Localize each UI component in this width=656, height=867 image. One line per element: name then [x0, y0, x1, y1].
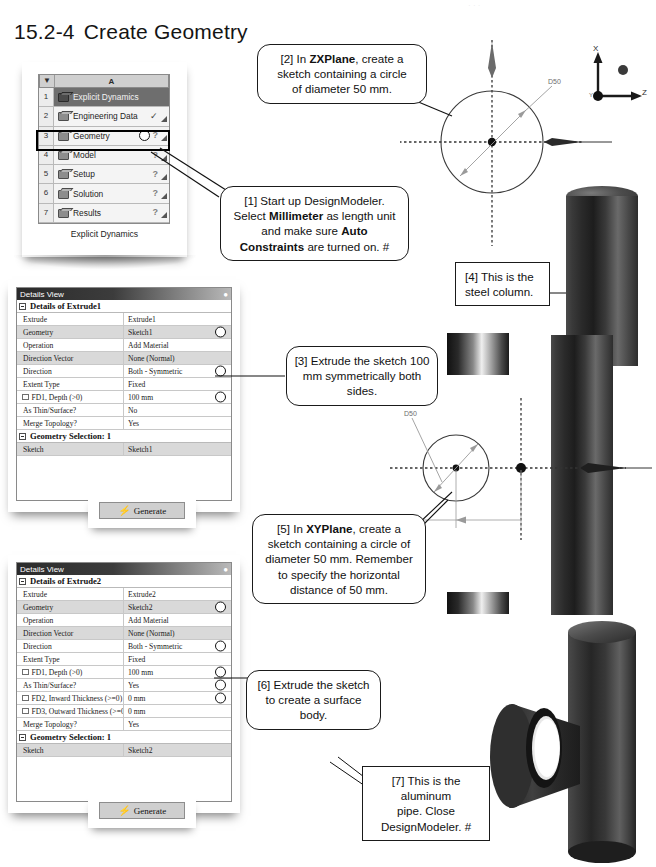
details-view-1-section-header[interactable]: Details of Extrude1	[17, 300, 231, 313]
parameter-checkbox[interactable]	[22, 669, 29, 676]
details-row-value[interactable]: None (Normal)	[124, 352, 231, 364]
cell-corner-icon[interactable]	[161, 174, 167, 180]
cell-body[interactable]: Setup?	[54, 165, 169, 183]
callout-marker-icon	[215, 693, 226, 704]
cell-body[interactable]: Results?	[54, 204, 169, 222]
details-row-value[interactable]: Yes	[124, 718, 231, 730]
details-row[interactable]: ExtrudeExtrude1	[17, 313, 231, 326]
schematic-header-row: ▼ A	[39, 74, 169, 88]
details-row[interactable]: OperationAdd Material	[17, 339, 231, 352]
details-row-value[interactable]: Fixed	[124, 378, 231, 390]
callout-2: [2] In ZXPlane, create asketch containin…	[257, 44, 427, 104]
pin-icon[interactable]: ●	[223, 565, 228, 574]
cell-corner-icon[interactable]	[161, 155, 167, 161]
details-key-label: Direction Vector	[23, 629, 73, 638]
details-row[interactable]: Extent TypeFixed	[17, 653, 231, 666]
collapse-icon[interactable]	[19, 578, 26, 585]
details-row-value[interactable]: 0 mm	[124, 705, 231, 717]
generate-button-bottom[interactable]: ⚡ Generate	[99, 802, 185, 819]
details-row[interactable]: As Thin/Surface?No	[17, 404, 231, 417]
details-value-label: Sketch2	[128, 603, 152, 612]
details-row-value[interactable]: 100 mm	[124, 391, 231, 403]
details-view-1-section2-header[interactable]: Geometry Selection: 1	[17, 430, 231, 443]
details-key-label: FD1, Depth (>0)	[32, 668, 83, 677]
details-row-value[interactable]: None (Normal)	[124, 627, 231, 639]
parameter-checkbox[interactable]	[22, 394, 29, 401]
cell-label: Setup	[73, 169, 95, 179]
details-row-value[interactable]: Yes	[124, 417, 231, 429]
details-row[interactable]: DirectionBoth - Symmetric	[17, 365, 231, 378]
details-row-value[interactable]: Fixed	[124, 653, 231, 665]
details-row[interactable]: OperationAdd Material	[17, 614, 231, 627]
details-row-key: As Thin/Surface?	[17, 404, 124, 416]
axis-label-x: X	[593, 44, 598, 53]
details-row[interactable]: As Thin/Surface?Yes	[17, 679, 231, 692]
details-row-value[interactable]: Sketch1	[124, 326, 231, 338]
sketch2-axis-arrow	[580, 463, 626, 473]
project-schematic-panel: ▼ A 1Explicit Dynamics2Engineering Data✓…	[22, 62, 187, 257]
details-row[interactable]: SketchSketch1	[17, 443, 231, 456]
schematic-row-explicit-dynamics[interactable]: 1Explicit Dynamics	[39, 88, 169, 107]
details-row-value[interactable]: Sketch1	[124, 443, 231, 455]
details-row-value[interactable]: 0 mm	[124, 692, 231, 704]
details-row-key: Merge Topology?	[17, 718, 124, 730]
details-row-value[interactable]: Extrude2	[124, 588, 231, 600]
callout-6-text: [6] Extrude the sketchto create a surfac…	[257, 678, 369, 721]
details-row-value[interactable]: Both - Symmetric	[124, 365, 231, 377]
caret-down-icon[interactable]: ▼	[40, 75, 55, 87]
details-row-value[interactable]: Add Material	[124, 339, 231, 351]
collapse-icon[interactable]	[19, 734, 26, 741]
generate-button-top[interactable]: ⚡ Generate	[99, 502, 185, 519]
details-row[interactable]: GeometrySketch1	[17, 326, 231, 339]
details-row[interactable]: Extent TypeFixed	[17, 378, 231, 391]
details-row[interactable]: SketchSketch2	[17, 744, 231, 757]
page-root: · · · 15.2-4Create Geometry ▼ A 1Explici…	[0, 0, 656, 867]
details-row[interactable]: Direction VectorNone (Normal)	[17, 352, 231, 365]
analysis-system-icon	[58, 92, 69, 102]
details-row-value[interactable]: Yes	[124, 679, 231, 691]
parameter-checkbox[interactable]	[22, 708, 29, 715]
collapse-icon[interactable]	[19, 433, 26, 440]
cell-body[interactable]: Explicit Dynamics	[54, 88, 169, 106]
details-row-value[interactable]: Sketch2	[124, 601, 231, 613]
details-row[interactable]: Merge Topology?Yes	[17, 718, 231, 731]
details-row[interactable]: FD1, Depth (>0)100 mm	[17, 666, 231, 679]
details-row[interactable]: FD1, Depth (>0)100 mm	[17, 391, 231, 404]
details-row-value[interactable]: Extrude1	[124, 313, 231, 325]
schematic-row-solution[interactable]: 6Solution?	[39, 184, 169, 203]
schematic-row-engineering-data[interactable]: 2Engineering Data✓	[39, 107, 169, 126]
cell-body[interactable]: Engineering Data✓	[54, 107, 169, 125]
details-key-label: Operation	[23, 341, 53, 350]
schematic-rows: 1Explicit Dynamics2Engineering Data✓3Geo…	[39, 88, 169, 223]
details-row-value[interactable]: 100 mm	[124, 666, 231, 678]
pin-icon[interactable]: ●	[223, 290, 228, 299]
section-title: Create Geometry	[84, 20, 248, 43]
cell-body[interactable]: Solution?	[54, 184, 169, 202]
details-row[interactable]: Merge Topology?Yes	[17, 417, 231, 430]
details-row[interactable]: Direction VectorNone (Normal)	[17, 627, 231, 640]
row-index: 2	[39, 107, 54, 125]
details-row[interactable]: GeometrySketch2	[17, 601, 231, 614]
callout-3: [3] Extrude the sketch 100mm symmetrical…	[286, 346, 438, 406]
schematic-row-setup[interactable]: 5Setup?	[39, 165, 169, 184]
collapse-icon[interactable]	[19, 303, 26, 310]
cell-corner-icon[interactable]	[161, 116, 167, 122]
details-value-label: Sketch1	[128, 445, 152, 454]
cell-corner-icon[interactable]	[161, 212, 167, 218]
details-row-value[interactable]: Both - Symmetric	[124, 640, 231, 652]
details-row[interactable]: ExtrudeExtrude2	[17, 588, 231, 601]
details-value-label: 100 mm	[128, 393, 153, 402]
cell-corner-icon[interactable]	[161, 193, 167, 199]
details-key-label: Direction Vector	[23, 354, 73, 363]
details-key-label: As Thin/Surface?	[23, 406, 76, 415]
parameter-checkbox[interactable]	[22, 695, 29, 702]
schematic-row-results[interactable]: 7Results?	[39, 204, 169, 223]
details-row-value[interactable]: Sketch2	[124, 744, 231, 756]
details-row[interactable]: FD2, Inward Thickness (>=0)0 mm	[17, 692, 231, 705]
details-row[interactable]: DirectionBoth - Symmetric	[17, 640, 231, 653]
details-view-2-section2-header[interactable]: Geometry Selection: 1	[17, 731, 231, 744]
details-row-value[interactable]: Add Material	[124, 614, 231, 626]
details-row-value[interactable]: No	[124, 404, 231, 416]
details-view-2-section-header[interactable]: Details of Extrude2	[17, 575, 231, 588]
details-row[interactable]: FD3, Outward Thickness (>=0)0 mm	[17, 705, 231, 718]
